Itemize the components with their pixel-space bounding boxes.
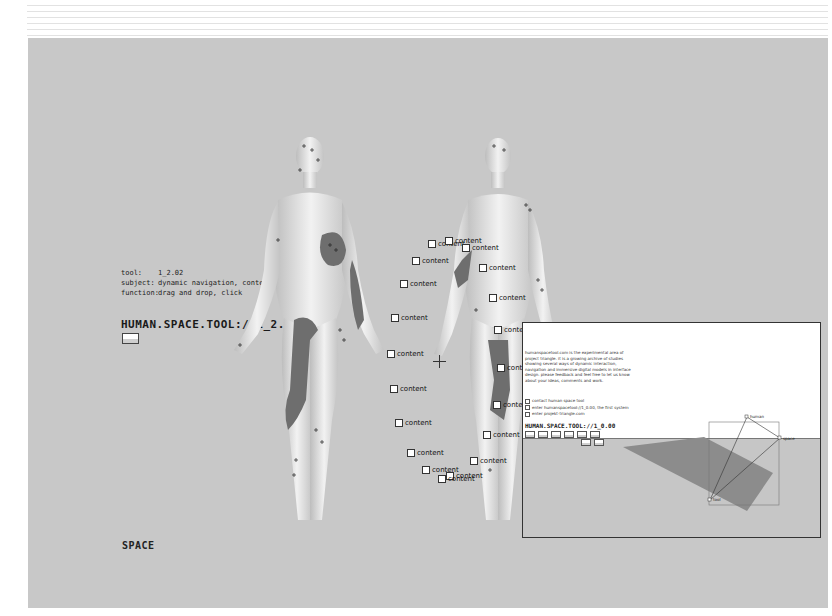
next-button[interactable]: [594, 439, 604, 446]
header-stripes: [27, 0, 828, 38]
content-node[interactable]: content: [400, 280, 437, 288]
space-label: SPACE: [122, 540, 155, 551]
popup-button[interactable]: [564, 431, 574, 438]
node-box-icon: [412, 257, 420, 265]
prev-button[interactable]: [581, 439, 591, 446]
link-label: enter projekt-triangle.com: [532, 411, 585, 418]
info-key: function:: [121, 288, 158, 298]
node-label: content: [405, 419, 432, 427]
popup-button[interactable]: [525, 431, 535, 438]
node-box-icon: [387, 350, 395, 358]
node-label: content: [422, 257, 449, 265]
node-human[interactable]: human: [750, 414, 764, 419]
node-label: content: [397, 350, 424, 358]
link-projekt-triangle[interactable]: enter projekt-triangle.com: [525, 411, 629, 418]
node-label: content: [401, 314, 428, 322]
node-label: content: [493, 431, 520, 439]
node-box-icon: [462, 244, 470, 252]
node-box-icon: [470, 457, 478, 465]
tool-toggle-button[interactable]: [122, 333, 139, 344]
node-box-icon: [479, 264, 487, 272]
node-label: content: [400, 385, 427, 393]
node-label: content: [489, 264, 516, 272]
node-box-icon: [407, 449, 415, 457]
popup-button[interactable]: [551, 431, 561, 438]
node-box-icon: [489, 294, 497, 302]
preview-window[interactable]: human space tool humanspacetool.com is t…: [522, 322, 821, 538]
popup-button[interactable]: [590, 431, 600, 438]
node-box-icon: [395, 419, 403, 427]
node-box-icon: [391, 314, 399, 322]
node-box-icon: [445, 237, 453, 245]
popup-button[interactable]: [538, 431, 548, 438]
content-node[interactable]: content: [470, 457, 507, 465]
figure-front[interactable]: [218, 130, 408, 530]
node-box-icon: [494, 326, 502, 334]
content-node[interactable]: content: [387, 350, 424, 358]
node-label: content: [480, 457, 507, 465]
node-box-icon: [497, 364, 505, 372]
popup-links: contact human space tool enter humanspac…: [525, 398, 629, 418]
content-node[interactable]: content: [438, 475, 475, 483]
popup-title: HUMAN.SPACE.TOOL://1_0.00: [525, 422, 615, 429]
checkbox-icon: [525, 405, 530, 410]
checkbox-icon: [525, 412, 530, 417]
node-tool[interactable]: tool: [713, 497, 721, 502]
node-box-icon: [428, 240, 436, 248]
popup-button[interactable]: [577, 431, 587, 438]
node-box-icon: [438, 475, 446, 483]
cursor-crosshair: [433, 355, 446, 368]
popup-nav-buttons: [581, 439, 604, 446]
node-label: content: [410, 280, 437, 288]
info-key: tool:: [121, 268, 158, 278]
node-label: content: [448, 475, 475, 483]
node-label: content: [417, 449, 444, 457]
content-node[interactable]: content: [390, 385, 427, 393]
popup-description: humanspacetool.com is the experimental a…: [525, 350, 635, 383]
popup-button-row: [525, 431, 600, 438]
content-node[interactable]: content: [489, 294, 526, 302]
content-node[interactable]: content: [479, 264, 516, 272]
content-node[interactable]: content: [395, 419, 432, 427]
content-node[interactable]: content: [412, 257, 449, 265]
node-space[interactable]: space: [783, 436, 795, 441]
node-box-icon: [483, 431, 491, 439]
content-node[interactable]: content: [483, 431, 520, 439]
content-node[interactable]: content: [407, 449, 444, 457]
node-box-icon: [400, 280, 408, 288]
node-label: content: [499, 294, 526, 302]
stage[interactable]: tool:1_2.02 subject:dynamic navigation, …: [28, 38, 828, 608]
node-box-icon: [422, 466, 430, 474]
node-box-icon: [493, 401, 501, 409]
info-value: 1_2.02: [158, 268, 183, 278]
checkbox-icon: [525, 399, 530, 404]
node-box-icon: [390, 385, 398, 393]
content-node[interactable]: content: [462, 244, 499, 252]
info-key: subject:: [121, 278, 158, 288]
content-node[interactable]: content: [391, 314, 428, 322]
node-label: content: [472, 244, 499, 252]
